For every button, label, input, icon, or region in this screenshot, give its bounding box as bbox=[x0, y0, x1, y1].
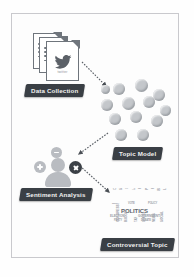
negative-sentiment-icon bbox=[51, 147, 62, 158]
word-cloud-term: OPINION bbox=[125, 188, 129, 189]
word-cloud-term: ISSUE bbox=[157, 188, 161, 191]
word-cloud-term: POLICY bbox=[148, 202, 157, 205]
topic-bubble bbox=[101, 99, 113, 111]
topic-bubble bbox=[137, 129, 149, 141]
twitter-bird-icon bbox=[54, 55, 71, 69]
topic-bubble bbox=[122, 97, 135, 110]
word-cloud-term: SOCIAL bbox=[160, 211, 164, 222]
topic-bubble bbox=[153, 89, 165, 101]
topic-bubble bbox=[115, 129, 127, 141]
topic-bubble bbox=[160, 105, 171, 116]
person-body bbox=[45, 172, 71, 187]
topic-bubble bbox=[113, 83, 125, 95]
topic-bubble bbox=[109, 113, 121, 125]
person-with-sentiment-badges-icon bbox=[32, 147, 84, 187]
topic-bubble bbox=[151, 115, 163, 127]
label-data-collection[interactable]: Data Collection bbox=[24, 84, 85, 97]
topic-bubble bbox=[143, 96, 155, 108]
twitter-wordmark: twitter bbox=[57, 70, 67, 74]
diagram-canvas: twitter Data Collection Topic Model Sent… bbox=[0, 0, 194, 277]
label-topic-model[interactable]: Topic Model bbox=[112, 147, 163, 160]
word-cloud-term: CAMPAIGN bbox=[113, 188, 117, 190]
word-cloud-term: RIGHTS bbox=[151, 188, 155, 189]
topic-bubble bbox=[130, 111, 142, 123]
document-page-front: twitter bbox=[46, 41, 79, 81]
word-cloud-icon: POLITICSELECTIONGOVERNMENTPARTYDEBATEVOT… bbox=[108, 188, 170, 234]
word-cloud-term: SENATE bbox=[119, 188, 123, 190]
word-cloud-term: NEWS bbox=[152, 213, 156, 222]
word-cloud-term: PUBLIC bbox=[145, 188, 149, 190]
word-cloud-term: CONGRESS bbox=[116, 205, 120, 222]
word-cloud-term: REFORM bbox=[138, 188, 142, 189]
cross-sentiment-icon bbox=[69, 161, 82, 174]
topic-bubble bbox=[135, 79, 148, 92]
label-controversial-topic[interactable]: Controversial Topic bbox=[100, 238, 175, 251]
page-fold-icon bbox=[71, 40, 80, 49]
positive-sentiment-icon bbox=[34, 161, 46, 173]
word-cloud-term: TAX bbox=[134, 217, 138, 222]
word-cloud-term: LAW bbox=[132, 188, 136, 190]
topic-bubble bbox=[101, 85, 110, 94]
person-head bbox=[51, 158, 65, 172]
label-sentiment-analysis[interactable]: Sentiment Analysis bbox=[19, 188, 93, 201]
word-cloud-term: STATE bbox=[142, 213, 146, 222]
bubble-cluster-icon bbox=[101, 79, 173, 145]
word-cloud-term: LEADER bbox=[163, 188, 167, 190]
word-cloud-term: VOTE bbox=[128, 202, 135, 205]
stacked-documents-twitter-icon: twitter bbox=[33, 29, 85, 81]
word-cloud-term: BUDGET bbox=[124, 210, 128, 222]
